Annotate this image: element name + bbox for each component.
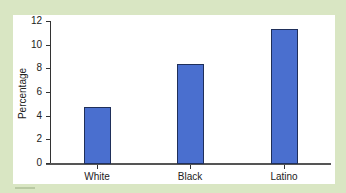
x-tick-label: White [67,171,127,182]
x-tick [190,165,191,169]
x-tick [97,165,98,169]
y-tick-label: 10 [22,39,42,50]
y-tick-label: 2 [22,133,42,144]
y-tick [46,21,50,22]
x-tick-label: Black [160,171,220,182]
y-tick [46,45,50,46]
y-tick-label: 6 [22,86,42,97]
y-tick [46,92,50,93]
bar-black [177,64,204,164]
y-tick [46,139,50,140]
bar-chart: Percentage 024681012WhiteBlackLatino [0,0,346,193]
y-tick-label: 8 [22,62,42,73]
y-axis [50,21,51,164]
y-tick-label: 0 [22,157,42,168]
y-tick [46,68,50,69]
bar-white [84,107,111,164]
y-tick-label: 4 [22,110,42,121]
x-tick-label: Latino [254,171,314,182]
y-tick [46,116,50,117]
footnote-mark [15,187,35,189]
y-tick-label: 12 [22,15,42,26]
bar-latino [271,29,298,164]
y-tick [46,163,50,164]
x-tick [284,165,285,169]
